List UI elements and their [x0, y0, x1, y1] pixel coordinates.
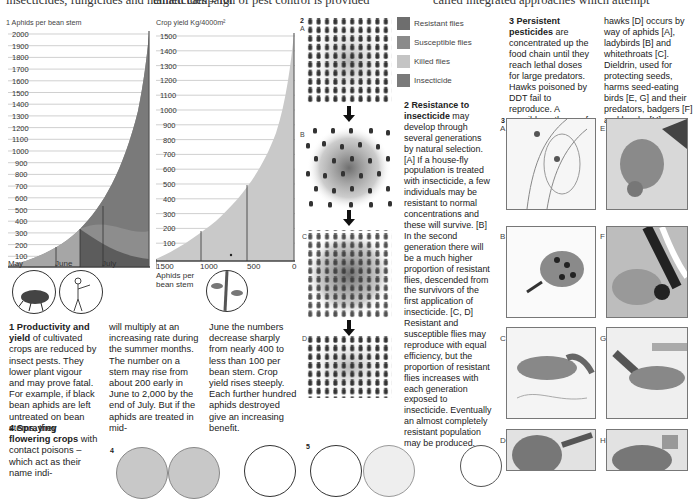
panel-h-hawk-illustration — [606, 429, 688, 471]
figure3-number: 3 — [501, 117, 505, 124]
panel-a-aphids-illustration — [506, 118, 596, 210]
panel-label-a: A — [500, 124, 505, 133]
legend-label: Resistant flies — [414, 19, 464, 28]
xlabel-0: 0 — [292, 262, 296, 271]
panel-label-c: C — [500, 334, 506, 343]
figure4-bee-circle — [244, 445, 296, 497]
top-text-middle: tained campaign of pest control is provi… — [153, 0, 370, 8]
ytick: 600 — [163, 165, 176, 174]
ytick: 2000 — [12, 30, 29, 39]
figure4-number: 4 — [110, 447, 114, 454]
caption-1-col3: June the numbers decrease sharply from n… — [209, 322, 299, 434]
legend-killed-flies: Killed flies — [397, 55, 450, 68]
ytick: 500 — [15, 206, 28, 215]
xlabel-may: May — [8, 259, 23, 268]
chart2-svg — [156, 33, 296, 269]
ytick: 1800 — [12, 53, 29, 62]
figure5-number: 5 — [306, 443, 310, 450]
legend-label: Susceptible flies — [414, 38, 472, 47]
ytick: 1600 — [12, 77, 29, 86]
ytick: 400 — [163, 195, 176, 204]
caption-2-text: may develop through several generations … — [404, 111, 491, 448]
ytick: 900 — [163, 121, 176, 130]
caption-4-heading: 4 Spraying flowering crops — [9, 423, 78, 444]
xtitle-line2: bean stem — [156, 280, 193, 289]
figure4-beetle-circle — [116, 447, 168, 499]
chart2-plot: 1500 1400 1300 1200 1100 1000 900 800 70… — [156, 33, 296, 269]
ytick: 1300 — [160, 62, 177, 71]
ytick: 200 — [15, 241, 28, 250]
stage-a-label: A — [300, 25, 305, 32]
panel-label-b: B — [500, 232, 505, 241]
legend-resistant-flies: Resistant flies — [397, 17, 464, 30]
figure5-outline-shape — [460, 445, 502, 487]
legend-susceptible-flies: Susceptible flies — [397, 36, 472, 49]
figure4-flower-circle — [168, 447, 220, 499]
xlabel-july: July — [102, 259, 116, 268]
ytick: 1700 — [12, 65, 29, 74]
sprayer-illustration — [59, 270, 103, 314]
caption-3-col2: hawks [D] occurs by way of aphids [A], l… — [604, 16, 694, 126]
ytick: 1400 — [12, 100, 29, 109]
panel-label-f: F — [600, 232, 605, 241]
panel-label-e: E — [600, 124, 605, 133]
ytick: 900 — [15, 159, 28, 168]
bean-stem-illustration — [206, 270, 248, 312]
panel-b-ladybird-illustration — [506, 226, 596, 318]
stage-b-label: B — [300, 131, 305, 138]
xlabel-1500: 1500 — [156, 262, 174, 271]
panel-d-hawk-illustration — [506, 429, 596, 471]
caption-1-col1: 1 Productivity and yield of cultivated c… — [9, 322, 99, 434]
ytick: 1500 — [12, 89, 29, 98]
ytick: 300 — [163, 210, 176, 219]
caption-1-col2: will multiply at an increasing rate duri… — [109, 322, 199, 434]
figure5-plant-circle — [363, 445, 415, 497]
xlabel-1000: 1000 — [200, 262, 218, 271]
ytick: 1900 — [12, 42, 29, 51]
ytick: 1100 — [160, 91, 176, 100]
panel-e-seed-bird-illustration — [606, 118, 688, 210]
caption-1-text: of cultivated crops are reduced by insec… — [9, 333, 96, 433]
caption-2: 2 Resistance to insecticide may develop … — [404, 100, 492, 449]
caption-4: 4 Spraying flowering crops with contact … — [9, 423, 99, 479]
xlabel-june: June — [55, 259, 72, 268]
susceptible-swatch — [397, 36, 410, 49]
ytick: 1300 — [12, 112, 29, 121]
fly-population-diagram — [306, 18, 396, 398]
panel-label-d: D — [500, 436, 506, 445]
insecticide-swatch — [397, 74, 410, 87]
ytick: 1500 — [160, 32, 177, 41]
xlabel-500: 500 — [247, 262, 260, 271]
ytick: 100 — [163, 239, 176, 248]
ytick: 700 — [15, 182, 28, 191]
top-text-right: called integrated approaches which attem… — [433, 0, 650, 8]
ytick: 500 — [163, 180, 176, 189]
ytick: 400 — [15, 217, 28, 226]
ytick: 800 — [163, 136, 176, 145]
legend-insecticide: Insecticide — [397, 74, 452, 87]
chart1-plot: 2000 1900 1800 1700 1600 1500 1400 1300 … — [8, 31, 150, 269]
ytick: 1200 — [160, 76, 177, 85]
ytick: 600 — [15, 194, 28, 203]
ytick: 700 — [163, 150, 176, 159]
resistant-swatch — [397, 17, 410, 30]
chart1-svg — [8, 31, 150, 269]
figure2-number: 2 — [300, 17, 304, 24]
killed-swatch — [397, 55, 410, 68]
ytick: 1200 — [12, 124, 29, 133]
panel-g-seed-bird-illustration — [606, 327, 688, 419]
ytick: 800 — [15, 170, 28, 179]
panel-c-whitethroat-illustration — [506, 327, 596, 419]
chart2-title: Crop yield Kg/4000m² — [156, 18, 226, 27]
figure5-insect-circle — [310, 445, 362, 497]
panel-f-badger-illustration — [606, 226, 688, 318]
ytick: 1000 — [160, 106, 177, 115]
ytick: 300 — [15, 229, 28, 238]
legend-label: Killed flies — [414, 57, 450, 66]
aphid-illustration — [12, 270, 56, 314]
xtitle-line1: Aphids per — [156, 271, 194, 280]
chart1-title: 1 Aphids per bean stem — [6, 18, 82, 27]
ytick: 1000 — [12, 147, 29, 156]
ytick: 1400 — [160, 47, 177, 56]
ytick: 1100 — [12, 135, 28, 144]
